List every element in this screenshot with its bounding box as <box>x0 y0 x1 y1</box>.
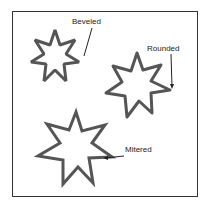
rounded-arrowhead <box>170 84 174 89</box>
label-beveled: Beveled <box>72 17 101 26</box>
beveled-arrow <box>84 28 92 56</box>
label-rounded: Rounded <box>147 44 179 53</box>
label-mitered: Mitered <box>125 145 152 154</box>
star-shapes <box>0 0 206 206</box>
mitered-star <box>38 112 112 184</box>
rounded-arrow <box>171 54 172 87</box>
rounded-star <box>106 53 170 117</box>
beveled-star <box>31 30 79 81</box>
